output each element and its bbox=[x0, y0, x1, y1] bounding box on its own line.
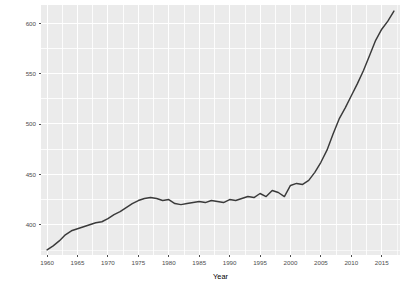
plot-panel bbox=[41, 5, 400, 255]
y-tick-label: 500 bbox=[16, 120, 36, 127]
x-tick-mark bbox=[260, 255, 261, 257]
y-tick-mark bbox=[39, 124, 41, 125]
x-tick-mark bbox=[199, 255, 200, 257]
x-tick-mark bbox=[47, 255, 48, 257]
x-tick-mark bbox=[229, 255, 230, 257]
x-tick-mark bbox=[107, 255, 108, 257]
data-series-layer bbox=[41, 5, 400, 255]
x-tick-label: 2000 bbox=[276, 259, 304, 266]
x-tick-label: 1980 bbox=[155, 259, 183, 266]
x-tick-label: 1995 bbox=[246, 259, 274, 266]
x-tick-label: 2015 bbox=[368, 259, 396, 266]
x-tick-label: 1960 bbox=[33, 259, 61, 266]
x-tick-mark bbox=[320, 255, 321, 257]
line-chart: 400450500550600 196019651970197519801985… bbox=[0, 0, 408, 288]
y-tick-mark bbox=[39, 224, 41, 225]
x-tick-label: 1990 bbox=[216, 259, 244, 266]
x-tick-label: 2005 bbox=[307, 259, 335, 266]
x-tick-mark bbox=[290, 255, 291, 257]
x-tick-mark bbox=[168, 255, 169, 257]
y-tick-label: 400 bbox=[16, 221, 36, 228]
y-tick-mark bbox=[39, 174, 41, 175]
y-tick-mark bbox=[39, 23, 41, 24]
x-tick-label: 2010 bbox=[337, 259, 365, 266]
y-tick-mark bbox=[39, 73, 41, 74]
x-tick-label: 1965 bbox=[64, 259, 92, 266]
series-line-no-active-mines bbox=[47, 11, 394, 250]
x-tick-mark bbox=[138, 255, 139, 257]
x-tick-label: 1985 bbox=[185, 259, 213, 266]
x-tick-mark bbox=[77, 255, 78, 257]
y-tick-label: 600 bbox=[16, 20, 36, 27]
x-tick-mark bbox=[351, 255, 352, 257]
y-tick-label: 450 bbox=[16, 171, 36, 178]
y-tick-label: 550 bbox=[16, 70, 36, 77]
x-axis-title: Year bbox=[41, 272, 400, 281]
x-tick-label: 1970 bbox=[94, 259, 122, 266]
x-tick-mark bbox=[381, 255, 382, 257]
x-tick-label: 1975 bbox=[124, 259, 152, 266]
